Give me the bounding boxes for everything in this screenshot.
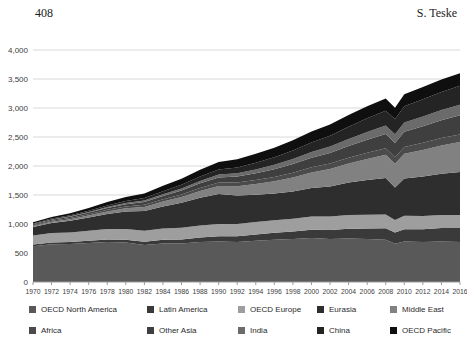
legend-swatch-other-asia	[147, 327, 154, 334]
y-tick-label: 500	[15, 249, 29, 258]
x-tick-label: 1988	[193, 288, 208, 295]
legend-item-middle-east: Middle East	[390, 305, 461, 314]
area-series-group	[33, 73, 460, 282]
x-tick-label: 2002	[322, 288, 337, 295]
x-tick-label: 1972	[44, 288, 59, 295]
x-tick-label: 2006	[360, 288, 375, 295]
x-tick-label: 2012	[415, 288, 430, 295]
x-tick-label: 1986	[174, 288, 189, 295]
legend-swatch-eurasia	[317, 306, 324, 313]
y-tick-label: 3,000	[8, 104, 29, 113]
legend-swatch-latin-america	[147, 306, 154, 313]
x-tick-label: 2008	[378, 288, 393, 295]
legend-swatch-india	[238, 327, 245, 334]
x-tick-label: 1996	[267, 288, 282, 295]
y-tick-label: 2,500	[8, 133, 29, 142]
y-tick-label: 2,000	[8, 162, 29, 171]
legend-item-africa: Africa	[29, 326, 147, 335]
legend-label-india: India	[250, 326, 267, 335]
x-tick-label: 1984	[155, 288, 170, 295]
chart-legend: OECD North AmericaLatin AmericaOECD Euro…	[29, 299, 461, 341]
legend-swatch-oecd-europe	[238, 306, 245, 313]
area-series-oecd-north-america	[33, 238, 460, 282]
legend-item-eurasia: Eurasia	[317, 305, 390, 314]
legend-item-oecd-europe: OECD Europe	[238, 305, 317, 314]
y-tick-label: 4,000	[8, 46, 29, 55]
x-tick-label: 2000	[304, 288, 319, 295]
book-page: 408 S. Teske 05001,0001,5002,0002,5003,0…	[0, 0, 467, 347]
legend-label-eurasia: Eurasia	[329, 305, 356, 314]
legend-label-middle-east: Middle East	[402, 305, 444, 314]
legend-swatch-china	[317, 327, 324, 334]
x-tick-label: 1980	[118, 288, 133, 295]
legend-label-china: China	[329, 326, 350, 335]
legend-item-india: India	[238, 326, 317, 335]
x-tick-label: 1974	[63, 288, 78, 295]
x-tick-label: 2004	[341, 288, 356, 295]
legend-swatch-africa	[29, 327, 36, 334]
stacked-area-chart: 05001,0001,5002,0002,5003,0003,5004,0001…	[0, 0, 467, 299]
legend-label-latin-america: Latin America	[159, 305, 207, 314]
x-tick-label: 1978	[100, 288, 115, 295]
x-tick-label: 1982	[137, 288, 152, 295]
legend-label-other-asia: Other Asia	[159, 326, 196, 335]
x-tick-label: 2016	[452, 288, 467, 295]
x-tick-label: 1990	[211, 288, 226, 295]
x-axis-labels: 1970197219741976197819801982198419861988…	[25, 288, 467, 295]
legend-label-africa: Africa	[41, 326, 61, 335]
legend-swatch-middle-east	[390, 306, 397, 313]
x-tick-label: 2010	[397, 288, 412, 295]
legend-label-oecd-pacific: OECD Pacific	[402, 326, 451, 335]
x-tick-label: 1994	[248, 288, 263, 295]
y-tick-label: 0	[24, 278, 29, 287]
y-tick-label: 1,000	[8, 220, 29, 229]
legend-item-other-asia: Other Asia	[147, 326, 238, 335]
legend-label-oecd-north-america: OECD North America	[41, 305, 117, 314]
legend-item-oecd-north-america: OECD North America	[29, 305, 147, 314]
y-tick-label: 3,500	[8, 75, 29, 84]
x-tick-label: 1998	[285, 288, 300, 295]
x-tick-label: 1976	[81, 288, 96, 295]
legend-item-oecd-pacific: OECD Pacific	[390, 326, 461, 335]
x-tick-label: 2014	[434, 288, 449, 295]
y-tick-label: 1,500	[8, 191, 29, 200]
legend-item-latin-america: Latin America	[147, 305, 238, 314]
legend-label-oecd-europe: OECD Europe	[250, 305, 301, 314]
y-axis-labels: 05001,0001,5002,0002,5003,0003,5004,000	[8, 46, 29, 287]
legend-swatch-oecd-pacific	[390, 327, 397, 334]
x-tick-label: 1970	[25, 288, 40, 295]
legend-item-china: China	[317, 326, 390, 335]
legend-swatch-oecd-north-america	[29, 306, 36, 313]
x-tick-label: 1992	[230, 288, 245, 295]
